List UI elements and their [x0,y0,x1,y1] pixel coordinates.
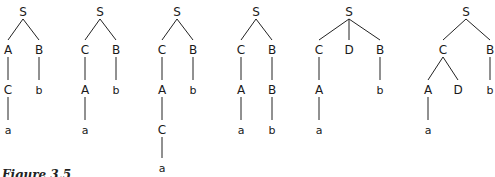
nonterminal-node: A [81,83,90,97]
tree-edge [349,19,380,40]
terminal-node: a [316,124,323,137]
terminal-node: a [159,162,166,175]
terminal-node: a [82,124,89,137]
terminal-node: b [190,84,197,97]
nonterminal-node: D [453,83,462,97]
terminal-node: a [425,124,432,137]
nonterminal-node: S [173,5,181,19]
nonterminal-node: A [315,83,324,97]
nonterminal-node: C [158,43,166,57]
nonterminal-node: B [376,43,384,57]
tree-edges [428,19,490,120]
nonterminal-node: B [268,83,276,97]
parse-tree-diagram: SABCbaSCBAbaSCBAbCaSCBABabSCDBAbaSCBADba [0,0,495,177]
nonterminal-node: B [486,43,494,57]
tree-edge [23,19,39,40]
terminal-node: b [36,84,43,97]
nonterminal-node: B [112,43,120,57]
tree-edge [241,19,256,40]
nonterminal-node: B [268,43,276,57]
parse-tree-1: SABCba [4,5,43,137]
nonterminal-node: A [424,83,433,97]
parse-tree-4: SCBABab [237,5,276,137]
nonterminal-node: S [462,5,470,19]
terminal-node: b [487,84,494,97]
tree-edge [85,19,100,40]
tree-edges [319,19,380,120]
nonterminal-node: A [4,43,13,57]
tree-edges [85,19,116,120]
nonterminal-node: S [96,5,104,19]
figure-caption: Figure 3.5 [2,168,71,177]
tree-edge [319,19,349,40]
tree-edge [443,19,466,40]
terminal-node: b [377,84,384,97]
nodes-layer: SABCbaSCBAbaSCBAbCaSCBABabSCDBAbaSCBADba [4,5,494,175]
parse-tree-3: SCBAbCa [158,5,197,175]
nonterminal-node: B [35,43,43,57]
nonterminal-node: C [81,43,89,57]
tree-edge [428,57,443,80]
terminal-node: a [238,124,245,137]
tree-edges [8,19,39,120]
nonterminal-node: A [158,83,167,97]
nonterminal-node: C [4,83,12,97]
terminal-node: a [5,124,12,137]
nonterminal-node: C [439,43,447,57]
tree-edge [8,19,23,40]
nonterminal-node: C [237,43,245,57]
nonterminal-node: S [19,5,27,19]
nonterminal-node: S [252,5,260,19]
tree-edge [100,19,116,40]
nonterminal-node: C [158,123,166,137]
terminal-node: b [269,124,276,137]
nonterminal-node: B [189,43,197,57]
nonterminal-node: A [237,83,246,97]
nonterminal-node: D [344,43,353,57]
tree-edge [177,19,193,40]
tree-edges [162,19,193,158]
tree-edge [466,19,490,40]
nonterminal-node: C [315,43,323,57]
terminal-node: b [113,84,120,97]
parse-tree-2: SCBAba [81,5,120,137]
nonterminal-node: S [345,5,353,19]
tree-edges [241,19,272,120]
tree-edge [256,19,272,40]
tree-edge [162,19,177,40]
tree-edge [443,57,458,80]
